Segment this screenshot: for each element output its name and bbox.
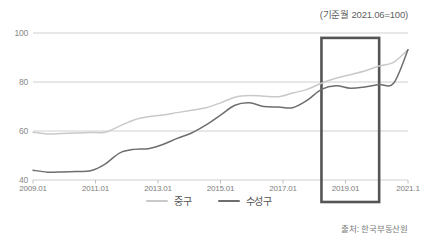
- source-note: 출처: 한국부동산원: [341, 222, 408, 234]
- legend-line-icon: [218, 200, 240, 202]
- y-axis-tick-label: 100: [6, 28, 28, 38]
- x-axis-tick-label: 2015.01: [197, 184, 245, 193]
- legend-item[interactable]: 중구: [146, 193, 192, 208]
- legend-label: 수성구: [246, 193, 272, 208]
- x-axis-tick-label: 2021.1: [384, 184, 425, 193]
- x-axis-tick-label: 2013.01: [134, 184, 182, 193]
- legend-item[interactable]: 수성구: [218, 193, 272, 208]
- x-axis-tick-label: 2009.01: [9, 184, 57, 193]
- legend-line-icon: [146, 200, 168, 202]
- legend-label: 중구: [174, 193, 192, 208]
- chart-legend: 중구수성구: [0, 193, 418, 208]
- x-axis-tick-label: 2011.01: [72, 184, 120, 193]
- x-axis-tick-label: 2017.01: [259, 184, 307, 193]
- y-axis-tick-label: 80: [6, 77, 28, 87]
- y-axis-tick-label: 60: [6, 126, 28, 136]
- x-axis-tick-label: 2019.01: [322, 184, 370, 193]
